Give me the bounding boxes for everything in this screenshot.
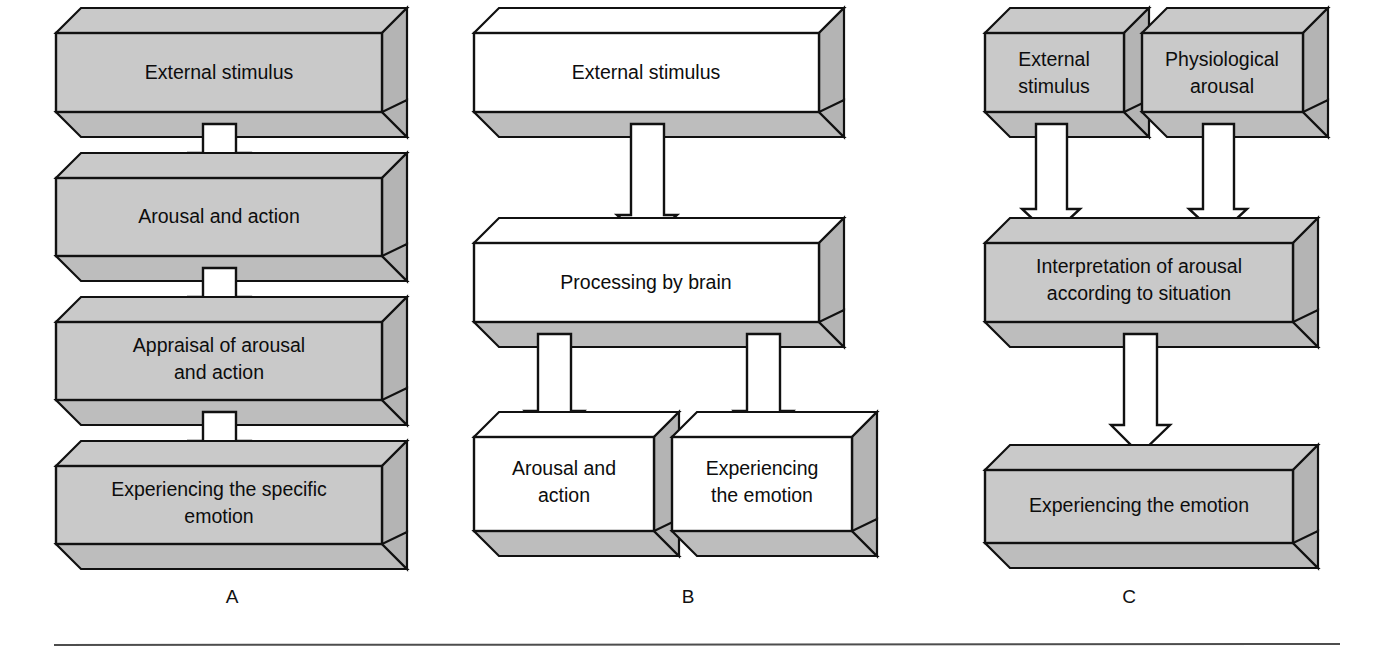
box-b-processing-by-brain[interactable]: Processing by brain xyxy=(474,218,844,347)
box-top-face xyxy=(56,297,407,322)
box-a-external-stimulus-label: External stimulus xyxy=(145,61,294,83)
box-c-experiencing-label: Experiencing the emotion xyxy=(1029,494,1249,516)
box-c-external-stimulus-label-line2: stimulus xyxy=(1018,75,1090,97)
box-b-external-stimulus-label: External stimulus xyxy=(572,61,721,83)
box-c-physiological-arousal-label-line1: Physiological xyxy=(1165,48,1279,70)
box-top-face xyxy=(56,153,407,178)
box-c-external-stimulus[interactable]: External stimulus xyxy=(985,8,1149,137)
box-bottom-face xyxy=(474,531,679,556)
box-c-interpretation-label-line1: Interpretation of arousal xyxy=(1036,255,1242,277)
box-top-face xyxy=(985,218,1318,243)
figure-canvas: External stimulus Arousal and action xyxy=(0,0,1394,662)
box-c-physiological-arousal-label-line2: arousal xyxy=(1190,75,1254,97)
panel-b: External stimulus Processing by brain xyxy=(474,8,877,607)
box-bottom-face xyxy=(474,322,844,347)
box-a-experiencing-label-line2: emotion xyxy=(184,505,253,527)
box-b-arousal-and-action[interactable]: Arousal and action xyxy=(474,412,679,556)
panel-letter-c: C xyxy=(1122,586,1136,607)
box-a-experiencing-label-line1: Experiencing the specific xyxy=(111,478,327,500)
box-a-experiencing[interactable]: Experiencing the specific emotion xyxy=(56,441,407,569)
box-b-experiencing[interactable]: Experiencing the emotion xyxy=(672,412,877,556)
box-a-appraisal-label-line1: Appraisal of arousal xyxy=(133,334,305,356)
box-top-face xyxy=(56,441,407,466)
box-bottom-face xyxy=(672,531,877,556)
box-b-experiencing-label-line1: Experiencing xyxy=(706,457,819,479)
box-front-face xyxy=(985,33,1124,112)
box-top-face xyxy=(672,412,877,437)
box-c-experiencing[interactable]: Experiencing the emotion xyxy=(985,445,1318,568)
box-c-physiological-arousal[interactable]: Physiological arousal xyxy=(1142,8,1328,137)
box-b-external-stimulus[interactable]: External stimulus xyxy=(474,8,844,137)
arrow-c-bottom xyxy=(1111,334,1170,454)
box-a-external-stimulus[interactable]: External stimulus xyxy=(56,8,407,137)
box-a-arousal-and-action[interactable]: Arousal and action xyxy=(56,153,407,281)
box-b-processing-by-brain-label: Processing by brain xyxy=(560,271,731,293)
box-bottom-face xyxy=(56,544,407,569)
box-bottom-face xyxy=(985,543,1318,568)
box-top-face xyxy=(474,412,679,437)
box-front-face xyxy=(1142,33,1303,112)
box-b-arousal-label-line1: Arousal and xyxy=(512,457,616,479)
box-c-external-stimulus-label-line1: External xyxy=(1018,48,1090,70)
box-a-appraisal-label-line2: and action xyxy=(174,361,264,383)
bottom-rule xyxy=(54,644,1340,645)
box-b-experiencing-label-line2: the emotion xyxy=(711,484,813,506)
panel-a: External stimulus Arousal and action xyxy=(56,8,407,607)
emotion-theories-figure: External stimulus Arousal and action xyxy=(0,0,1394,662)
box-a-appraisal[interactable]: Appraisal of arousal and action xyxy=(56,297,407,425)
box-b-arousal-label-line2: action xyxy=(538,484,590,506)
box-top-face xyxy=(985,8,1149,33)
panel-letter-b: B xyxy=(682,586,695,607)
box-c-interpretation-label-line2: according to situation xyxy=(1047,282,1231,304)
box-c-interpretation[interactable]: Interpretation of arousal according to s… xyxy=(985,218,1318,347)
panel-c: External stimulus Physiological arousal xyxy=(985,8,1328,607)
box-top-face xyxy=(985,445,1318,470)
box-a-arousal-and-action-label: Arousal and action xyxy=(138,205,300,227)
box-top-face xyxy=(474,218,844,243)
box-top-face xyxy=(56,8,407,33)
panel-letter-a: A xyxy=(226,586,239,607)
box-top-face xyxy=(474,8,844,33)
box-top-face xyxy=(1142,8,1328,33)
